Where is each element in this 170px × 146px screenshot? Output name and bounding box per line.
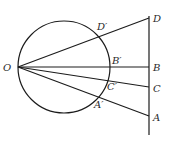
label-B-prime: B′ <box>111 55 122 66</box>
label-C: C <box>153 83 161 94</box>
label-C-prime: C′ <box>107 81 118 92</box>
segment-OC <box>18 67 149 87</box>
label-D: D <box>152 13 161 24</box>
geometry-diagram: O D B C A D′ B′ C′ A′ <box>0 0 170 146</box>
label-D-prime: D′ <box>96 21 108 32</box>
label-A: A <box>152 112 160 123</box>
label-A-prime: A′ <box>93 99 104 110</box>
label-B: B <box>152 62 160 73</box>
label-O: O <box>3 62 11 73</box>
